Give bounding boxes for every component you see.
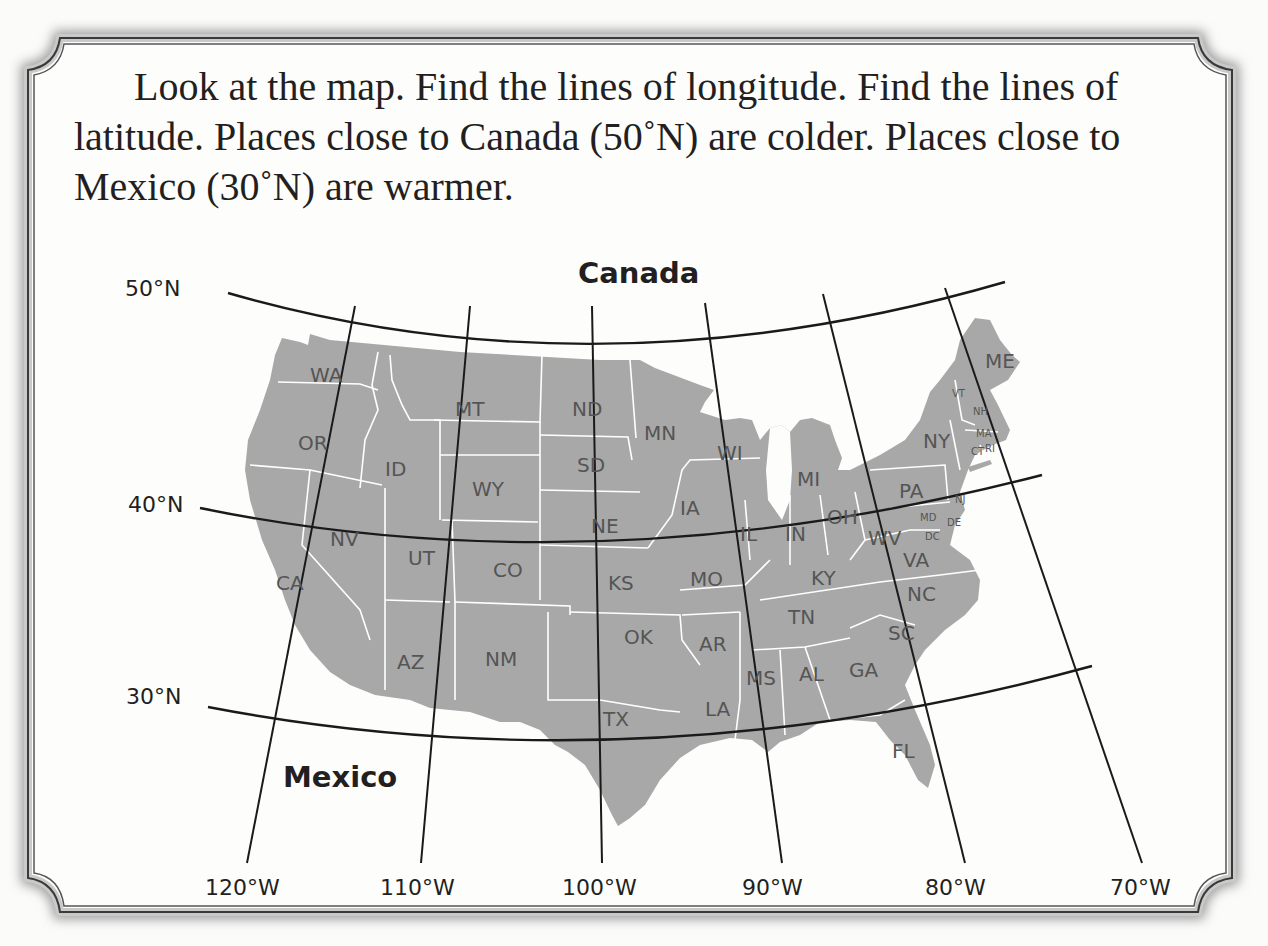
- state-label-sd: SD: [577, 453, 605, 477]
- state-label-ms: MS: [746, 666, 776, 690]
- state-label-la: LA: [705, 697, 731, 721]
- state-label-wy: WY: [472, 477, 505, 501]
- latitude-label-50n: 50°N: [125, 276, 180, 301]
- state-label-ri: RI: [985, 443, 995, 454]
- state-label-nc: NC: [907, 582, 936, 606]
- state-label-or: OR: [298, 431, 328, 455]
- state-label-ks: KS: [608, 571, 634, 595]
- state-label-dc: DC: [925, 531, 940, 542]
- mexico-label: Mexico: [283, 760, 397, 794]
- state-label-wa: WA: [310, 363, 343, 387]
- state-label-in: IN: [785, 522, 806, 546]
- state-label-fl: FL: [892, 739, 916, 763]
- state-label-ut: UT: [408, 546, 436, 570]
- state-label-al: AL: [799, 662, 825, 686]
- state-label-ny: NY: [923, 429, 951, 453]
- state-label-mi: MI: [797, 467, 820, 491]
- us-latitude-longitude-map: Canada Mexico 50°N 40°N 30°N 120°W 110°W…: [0, 0, 1268, 946]
- state-label-oh: OH: [827, 505, 858, 529]
- state-label-ga: GA: [849, 658, 878, 682]
- longitude-label-80w: 80°W: [925, 875, 986, 900]
- state-label-nh: NH: [973, 406, 988, 417]
- latitude-label-30n: 30°N: [126, 684, 181, 709]
- state-label-me: ME: [985, 349, 1015, 373]
- state-label-az: AZ: [397, 650, 424, 674]
- state-label-de: DE: [947, 517, 961, 528]
- state-label-ok: OK: [624, 625, 654, 649]
- state-label-pa: PA: [899, 479, 924, 503]
- state-label-ct: CT: [971, 446, 985, 457]
- longitude-label-90w: 90°W: [742, 875, 803, 900]
- state-label-tx: TX: [602, 707, 629, 731]
- latitude-label-40n: 40°N: [128, 492, 183, 517]
- state-label-nm: NM: [485, 647, 517, 671]
- state-label-ky: KY: [811, 566, 836, 590]
- state-label-wv: WV: [868, 526, 902, 550]
- state-label-mt: MT: [455, 397, 485, 421]
- latitude-50n-line: [228, 282, 1005, 344]
- state-label-nj: NJ: [955, 494, 965, 505]
- state-label-md: MD: [920, 512, 937, 523]
- state-label-ar: AR: [699, 632, 727, 656]
- state-label-nv: NV: [330, 527, 359, 551]
- state-label-ma: MA: [976, 428, 992, 439]
- longitude-label-100w: 100°W: [562, 875, 637, 900]
- state-label-id: ID: [385, 457, 406, 481]
- state-label-co: CO: [493, 558, 523, 582]
- state-label-ca: CA: [276, 571, 304, 595]
- longitude-label-110w: 110°W: [380, 875, 455, 900]
- state-label-il: IL: [740, 522, 758, 546]
- state-label-nd: ND: [572, 397, 602, 421]
- state-label-mo: MO: [690, 567, 723, 591]
- state-label-vt: VT: [952, 388, 966, 399]
- state-label-wi: WI: [717, 441, 743, 465]
- longitude-label-120w: 120°W: [205, 875, 280, 900]
- longitude-label-70w: 70°W: [1110, 875, 1171, 900]
- state-label-ia: IA: [680, 496, 700, 520]
- state-label-mn: MN: [644, 421, 676, 445]
- state-label-sc: SC: [888, 621, 915, 645]
- state-label-tn: TN: [787, 605, 815, 629]
- state-label-ne: NE: [591, 514, 619, 538]
- state-label-va: VA: [903, 548, 929, 572]
- canada-label: Canada: [578, 256, 699, 290]
